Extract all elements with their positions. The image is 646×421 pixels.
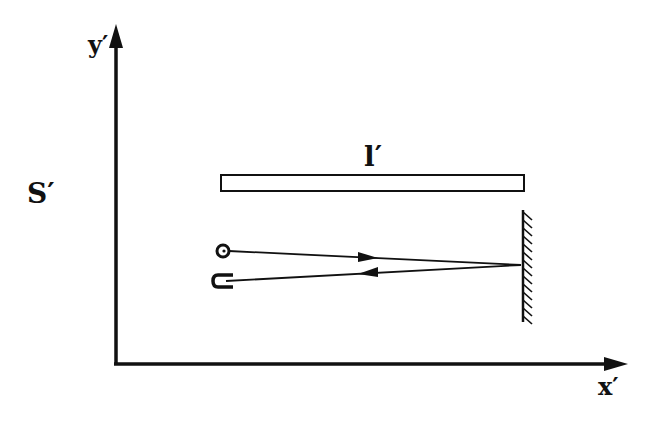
x-axis xyxy=(114,357,628,371)
y-axis xyxy=(109,24,123,364)
return-ray xyxy=(226,265,521,281)
frame-label: S′ xyxy=(27,177,55,210)
light-source-icon xyxy=(217,245,229,257)
y-axis-label: y′ xyxy=(88,30,108,59)
outgoing-ray xyxy=(229,251,521,265)
diagram-svg xyxy=(0,0,646,421)
diagram-canvas: y′ x′ S′ l′ xyxy=(0,0,646,421)
rod-length-label: l′ xyxy=(364,140,382,173)
mirror xyxy=(523,210,532,324)
x-axis-label: x′ xyxy=(598,372,619,401)
rod xyxy=(221,175,524,191)
